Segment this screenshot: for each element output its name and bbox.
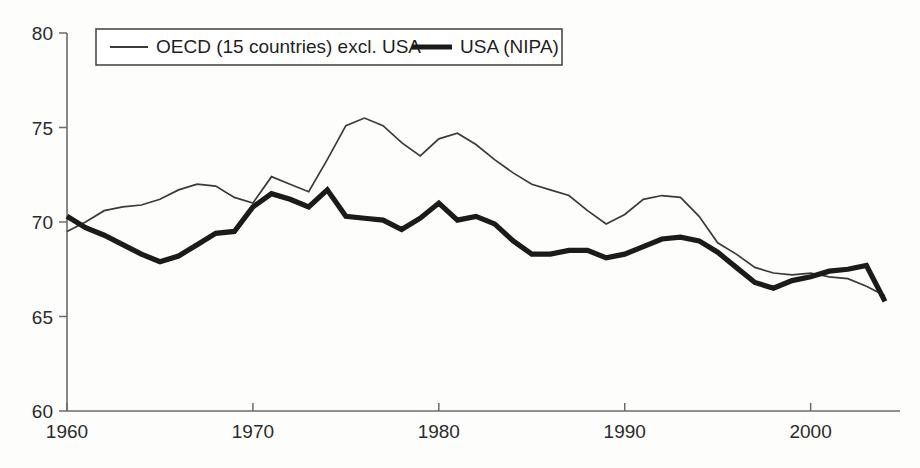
legend-label-usa: USA (NIPA) [460,36,559,57]
x-tick-label: 1970 [232,421,274,442]
x-tick-label: 1990 [604,421,646,442]
series-line-usa [67,190,885,302]
y-tick-label: 70 [32,212,53,233]
y-tick-label: 65 [32,307,53,328]
line-chart: 6065707580 19601970198019902000 OECD (15… [0,0,920,468]
x-tick-label: 2000 [789,421,831,442]
legend: OECD (15 countries) excl. USA USA (NIPA) [96,29,562,65]
x-axis-ticks: 19601970198019902000 [46,403,832,442]
legend-label-oecd: OECD (15 countries) excl. USA [156,36,421,57]
y-tick-label: 75 [32,118,53,139]
y-axis-group: 6065707580 [32,23,67,422]
y-tick-label: 60 [32,401,53,422]
x-tick-label: 1960 [46,421,88,442]
x-tick-label: 1980 [418,421,460,442]
chart-container: 6065707580 19601970198019902000 OECD (15… [0,0,920,468]
data-series-group [67,118,885,301]
y-tick-label: 80 [32,23,53,44]
y-axis-ticks: 6065707580 [32,23,67,422]
series-line-oecd [67,118,885,296]
x-axis-group: 19601970198019902000 [46,403,900,442]
